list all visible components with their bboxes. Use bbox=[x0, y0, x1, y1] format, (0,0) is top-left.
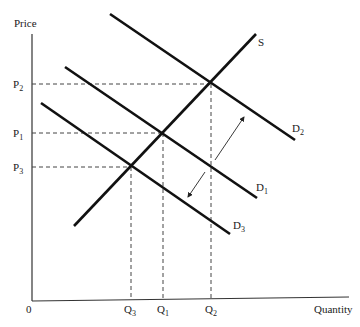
p3-label: P3 bbox=[13, 161, 23, 176]
x-axis-label: Quantity bbox=[314, 303, 353, 315]
d3-label: D3 bbox=[233, 219, 245, 234]
q3-label: Q3 bbox=[124, 303, 136, 318]
demand-curve-d2 bbox=[110, 14, 295, 140]
d1-label: D1 bbox=[256, 181, 268, 196]
origin-label: 0 bbox=[26, 303, 32, 315]
q1-label: Q1 bbox=[157, 303, 169, 318]
x-axis bbox=[32, 297, 349, 301]
supply-demand-diagram: Price Quantity 0 P2 P1 P3 Q3 Q1 Q2 S D2 … bbox=[0, 0, 360, 327]
supply-curve bbox=[74, 34, 256, 226]
p1-label: P1 bbox=[13, 127, 23, 142]
demand-decrease-arrow-icon bbox=[188, 172, 205, 197]
demand-curve-d1 bbox=[65, 67, 257, 198]
demand-increase-arrow-icon bbox=[215, 117, 244, 160]
demand-curve-d3 bbox=[41, 103, 230, 234]
p2-label: P2 bbox=[13, 78, 23, 93]
supply-label: S bbox=[258, 36, 264, 48]
d2-label: D2 bbox=[292, 122, 304, 137]
y-axis-label: Price bbox=[14, 17, 37, 29]
q2-label: Q2 bbox=[205, 303, 217, 318]
